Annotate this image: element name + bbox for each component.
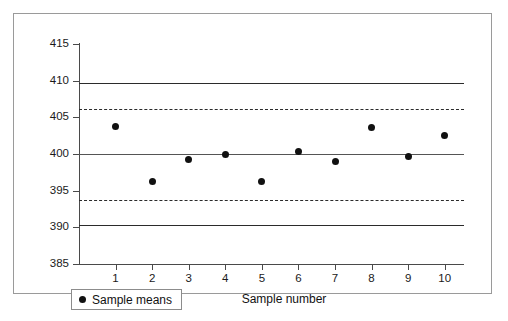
x-axis-tick-label: 8	[362, 272, 382, 284]
figure-frame: 385390395400405410415 12345678910 Sample…	[13, 13, 492, 294]
y-axis-tick-label: 400	[42, 148, 69, 159]
chart-legend: Sample means	[71, 289, 182, 310]
data-point	[149, 178, 156, 185]
y-axis-tick-label: 410	[42, 75, 69, 86]
x-axis-tick-label: 1	[106, 272, 126, 284]
upper-control-limit	[79, 83, 464, 84]
y-axis-tick	[73, 117, 79, 118]
x-axis-tick-label: 7	[325, 272, 345, 284]
x-axis-tick	[189, 264, 190, 270]
x-axis-tick	[225, 264, 226, 270]
x-axis-title: Sample number	[214, 293, 354, 306]
y-axis-tick	[73, 227, 79, 228]
x-axis-tick-label: 6	[288, 272, 308, 284]
lower-warning-limit	[79, 200, 464, 201]
upper-warning-limit	[79, 109, 464, 110]
x-axis-tick	[372, 264, 373, 270]
y-axis-tick	[73, 44, 79, 45]
control-chart-plot: 385390395400405410415 12345678910 Sample…	[14, 14, 491, 293]
data-point	[368, 124, 375, 131]
x-axis-line	[79, 264, 464, 265]
x-axis-tick	[152, 264, 153, 270]
x-axis-tick	[335, 264, 336, 270]
y-axis-tick-label: 395	[42, 185, 69, 196]
y-axis-tick-label: 415	[42, 38, 69, 49]
data-point	[405, 153, 412, 160]
y-axis-tick-label: 390	[42, 221, 69, 232]
x-axis-tick-label: 5	[252, 272, 272, 284]
x-axis-tick-label: 10	[435, 272, 455, 284]
y-axis-tick	[73, 191, 79, 192]
legend-entry-label: Sample means	[92, 294, 172, 306]
x-axis-tick	[445, 264, 446, 270]
x-axis-tick	[116, 264, 117, 270]
y-axis-tick	[73, 264, 79, 265]
data-point	[332, 158, 339, 165]
data-point	[258, 178, 265, 185]
data-point	[185, 156, 192, 163]
x-axis-tick-label: 2	[142, 272, 162, 284]
x-axis-tick-label: 3	[179, 272, 199, 284]
lower-control-limit	[79, 225, 464, 226]
y-axis-tick-label: 385	[42, 258, 69, 269]
data-point	[112, 123, 119, 130]
x-axis-tick	[408, 264, 409, 270]
x-axis-tick-label: 4	[215, 272, 235, 284]
data-point	[222, 151, 229, 158]
x-axis-tick-label: 9	[398, 272, 418, 284]
y-axis-tick-label: 405	[42, 111, 69, 122]
y-axis-tick	[73, 81, 79, 82]
x-axis-tick	[262, 264, 263, 270]
legend-marker-icon	[79, 296, 86, 303]
x-axis-tick	[298, 264, 299, 270]
data-point	[441, 132, 448, 139]
data-point	[295, 148, 302, 155]
